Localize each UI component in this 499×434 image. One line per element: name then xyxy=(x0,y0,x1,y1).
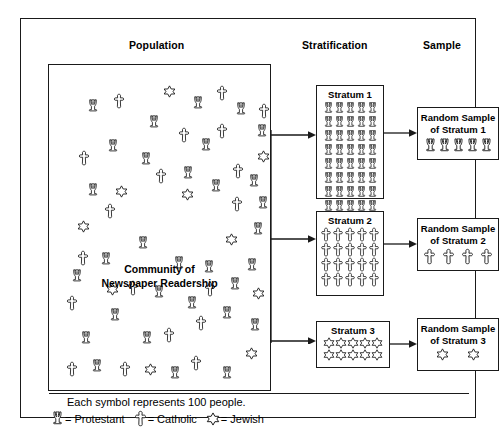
catholic-icon xyxy=(77,250,89,266)
protestant-icon xyxy=(100,251,112,267)
stratum-title-1: Stratum 1 xyxy=(317,89,383,100)
sample-title-2-line2: of Stratum 2 xyxy=(418,235,498,247)
catholic-icon xyxy=(332,227,344,242)
arrow-stratum1-to-sample1 xyxy=(383,127,419,139)
protestant-icon xyxy=(91,358,103,374)
protestant-icon xyxy=(356,157,367,171)
protestant-icon xyxy=(323,171,334,185)
catholic-icon xyxy=(320,272,332,287)
catholic-icon xyxy=(332,242,344,257)
arrow-stratum2-to-sample2 xyxy=(383,238,419,250)
catholic-icon xyxy=(258,103,270,119)
catholic-icon xyxy=(66,361,78,377)
protestant-icon xyxy=(323,115,334,129)
jewish-icon xyxy=(347,337,359,349)
protestant-icon xyxy=(186,295,198,311)
catholic-icon xyxy=(216,123,228,139)
protestant-icon xyxy=(141,330,153,346)
jewish-icon xyxy=(323,337,335,349)
protestant-icon xyxy=(345,171,356,185)
protestant-icon xyxy=(345,185,356,199)
legend-entry-label: = Protestant xyxy=(65,412,125,426)
sample-title-2-line1: Random Sample xyxy=(418,223,498,235)
protestant-icon xyxy=(345,101,356,115)
stratum-symbol-grid-2 xyxy=(318,227,383,287)
jewish-icon xyxy=(245,347,258,360)
jewish-icon xyxy=(206,412,220,426)
column-header-population: Population xyxy=(129,39,184,51)
protestant-icon xyxy=(466,137,479,154)
protestant-icon xyxy=(182,165,194,181)
catholic-icon xyxy=(461,248,474,265)
protestant-icon xyxy=(345,143,356,157)
protestant-icon xyxy=(140,151,152,167)
stratum-symbol-grid-3 xyxy=(321,337,386,361)
catholic-icon xyxy=(66,295,78,311)
protestant-icon xyxy=(109,307,121,323)
catholic-icon xyxy=(344,272,356,287)
jewish-icon xyxy=(467,348,480,361)
protestant-icon xyxy=(367,101,378,115)
protestant-icon xyxy=(334,143,345,157)
protestant-icon xyxy=(334,171,345,185)
catholic-icon xyxy=(134,410,147,427)
protestant-icon xyxy=(221,365,233,381)
catholic-icon xyxy=(344,242,356,257)
sample-title-1-line2: of Stratum 1 xyxy=(418,124,498,136)
protestant-icon xyxy=(173,255,185,271)
catholic-icon xyxy=(368,257,380,272)
protestant-icon xyxy=(334,129,345,143)
legend-entry-label: = Catholic xyxy=(148,412,197,426)
jewish-icon xyxy=(323,349,335,361)
protestant-icon xyxy=(249,317,261,333)
protestant-icon xyxy=(356,143,367,157)
sample-title-3: Random Sample of Stratum 3 xyxy=(418,323,498,346)
protestant-icon xyxy=(345,129,356,143)
protestant-icon xyxy=(345,115,356,129)
jewish-icon xyxy=(163,85,176,98)
catholic-icon xyxy=(178,127,190,143)
protestant-icon xyxy=(256,123,268,139)
stratum-title-2: Stratum 2 xyxy=(317,215,383,226)
protestant-icon xyxy=(192,95,204,111)
legend-entry-label: = Jewish xyxy=(221,412,264,426)
column-header-sample: Sample xyxy=(423,39,461,51)
catholic-icon xyxy=(163,327,175,343)
sample-title-3-line2: of Stratum 3 xyxy=(418,335,498,347)
catholic-icon xyxy=(232,163,244,179)
sample-title-3-line1: Random Sample xyxy=(418,323,498,335)
population-box: Community of Newspaper Readership xyxy=(48,64,271,391)
protestant-icon xyxy=(210,178,222,194)
catholic-icon xyxy=(204,281,216,297)
protestant-icon xyxy=(367,129,378,143)
legend-divider xyxy=(49,393,469,394)
catholic-icon xyxy=(442,248,455,265)
catholic-icon xyxy=(356,272,368,287)
catholic-icon xyxy=(344,227,356,242)
protestant-icon xyxy=(252,221,264,237)
protestant-icon xyxy=(356,115,367,129)
catholic-icon xyxy=(356,257,368,272)
catholic-icon xyxy=(216,85,228,101)
sample-symbol-row-3 xyxy=(418,348,498,361)
catholic-icon xyxy=(231,196,243,212)
sample-box-1: Random Sample of Stratum 1 xyxy=(417,107,499,160)
legend: Each symbol represents 100 people. = Pro… xyxy=(51,395,471,427)
catholic-icon xyxy=(368,272,380,287)
protestant-icon xyxy=(323,101,334,115)
protestant-icon xyxy=(438,137,451,154)
protestant-icon xyxy=(51,410,64,427)
protestant-icon xyxy=(334,115,345,129)
protestant-icon xyxy=(334,101,345,115)
jewish-icon xyxy=(115,185,128,198)
protestant-icon xyxy=(334,185,345,199)
jewish-icon xyxy=(77,220,90,233)
arrow-population-to-strata xyxy=(270,129,318,344)
stratum-title-3: Stratum 3 xyxy=(317,325,389,336)
protestant-icon xyxy=(367,171,378,185)
protestant-icon xyxy=(323,143,334,157)
jewish-icon xyxy=(347,349,359,361)
catholic-icon xyxy=(119,361,131,377)
protestant-icon xyxy=(323,129,334,143)
sample-title-1: Random Sample of Stratum 1 xyxy=(418,112,498,135)
